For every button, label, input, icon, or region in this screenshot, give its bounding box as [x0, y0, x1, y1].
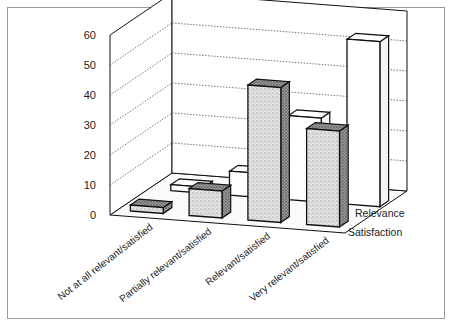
y-tick-label: 0: [90, 209, 96, 221]
y-tick-label: 10: [84, 179, 96, 191]
bar-chart-3d: 0102030405060Not at all relevant/satisfi…: [0, 0, 451, 324]
y-tick-label: 50: [84, 59, 96, 71]
series-label-satisfaction: Satisfaction: [348, 226, 402, 238]
bar: [347, 33, 389, 206]
y-tick-label: 20: [84, 149, 96, 161]
bar: [189, 183, 231, 218]
y-tick-label: 40: [84, 89, 96, 101]
bar: [130, 199, 172, 213]
bar: [248, 79, 290, 222]
y-tick-label: 60: [84, 29, 96, 41]
bar: [307, 123, 349, 227]
series-label-relevance: Relevance: [355, 207, 405, 219]
y-tick-label: 30: [84, 119, 96, 131]
x-category-label: Relevant/satisfied: [203, 230, 272, 287]
